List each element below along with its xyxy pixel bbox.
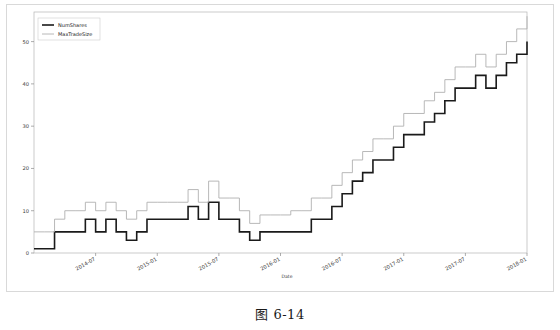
line-chart: 010203040502014-072015-012015-072016-012…	[0, 0, 560, 296]
legend-label-maxtradesize: MaxTradeSize	[58, 31, 92, 37]
series-line-maxtradesize	[34, 16, 527, 232]
x-axis-tick-label: 2016-01	[259, 256, 281, 272]
x-axis-tick-label: 2014-07	[74, 256, 96, 272]
x-axis-tick-label: 2017-07	[444, 256, 466, 272]
y-axis-tick-label: 50	[22, 39, 29, 45]
y-axis-tick-label: 20	[22, 165, 29, 171]
x-axis-tick-label: 2016-07	[321, 256, 343, 272]
y-axis-tick-label: 0	[26, 250, 29, 256]
plot-area: 010203040502014-072015-012015-072016-012…	[0, 0, 560, 296]
x-axis-title: Date	[282, 274, 293, 279]
y-axis-tick-label: 40	[22, 81, 29, 87]
figure-caption: 图 6-14	[255, 304, 304, 323]
series-line-numshares	[34, 42, 527, 249]
legend-label-numshares: NumShares	[58, 22, 87, 28]
x-axis-tick-label: 2018-01	[506, 256, 528, 272]
x-axis-tick-label: 2015-01	[136, 256, 158, 272]
x-axis-tick-label: 2017-01	[382, 256, 404, 272]
y-axis-tick-label: 30	[22, 123, 29, 129]
figure-caption-wrap: 图 6-14	[0, 296, 560, 330]
x-axis-tick-label: 2015-07	[198, 256, 220, 272]
figure-canvas: 010203040502014-072015-012015-072016-012…	[0, 0, 560, 296]
plot-frame	[34, 12, 527, 253]
y-axis-tick-label: 10	[22, 208, 29, 214]
